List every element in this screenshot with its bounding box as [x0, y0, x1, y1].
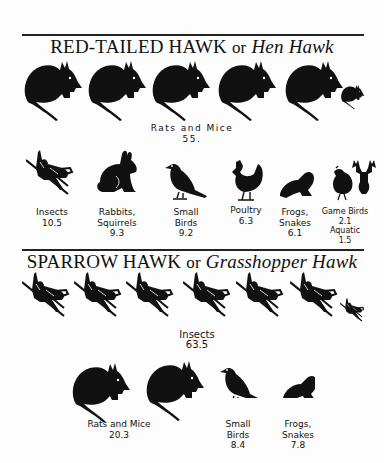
title-main: RED-TAILED HAWK — [50, 36, 227, 57]
frogs-snakes-label: Frogs,Snakes6.1 — [279, 207, 311, 239]
frogs-snakes-label: Frogs,Snakes7.8 — [282, 419, 314, 451]
title-alt: Hen Hawk — [251, 36, 333, 57]
title-main: SPARROW HAWK — [27, 251, 182, 272]
grasshopper-icon — [26, 150, 78, 200]
grasshopper-icon — [236, 272, 290, 328]
insects-label: Insects10.5 — [36, 207, 68, 228]
title-or: or — [232, 38, 247, 57]
crayfish-icon — [350, 160, 378, 196]
songbird-icon — [165, 158, 211, 202]
rat-icon — [86, 58, 150, 124]
title-alt: Grasshopper Hawk — [206, 251, 358, 272]
rabbits-squirrels-label: Rabbits,Squirrels9.3 — [97, 207, 136, 239]
grasshopper-icon — [22, 272, 76, 328]
grasshopper-icon — [290, 272, 344, 328]
grasshopper-partial-icon — [340, 298, 364, 322]
grasshopper-icon — [74, 272, 128, 328]
poultry-label: Poultry6.3 — [230, 205, 261, 226]
grasshopper-icon — [183, 272, 237, 328]
rat-icon — [150, 58, 214, 124]
insects-label: Insects63.5 — [179, 330, 214, 350]
red-tailed-hawk-title: RED-TAILED HAWK or Hen Hawk — [0, 36, 384, 58]
rat-icon — [283, 58, 347, 124]
title-or: or — [186, 253, 201, 272]
rabbit-icon — [94, 150, 142, 196]
rat-icon — [70, 360, 134, 422]
game-birds-aquatic-label: Game Birds2.1 Aquatic1.5 — [322, 207, 368, 245]
frog-icon — [278, 166, 316, 200]
small-birds-label: SmallBirds8.4 — [226, 419, 251, 451]
rat-icon — [22, 58, 86, 124]
rats-mice-label: Rats and Mice20.3 — [87, 419, 150, 440]
songbird-icon — [220, 362, 260, 398]
frog-icon — [281, 370, 315, 398]
small-birds-label: SmallBirds9.2 — [174, 207, 199, 239]
rat-icon — [216, 58, 280, 124]
rat-icon — [144, 358, 208, 422]
rat-half-icon — [340, 82, 366, 112]
sparrow-hawk-title: SPARROW HAWK or Grasshopper Hawk — [0, 251, 384, 273]
rats-mice-label: Rats and Mice 55. — [151, 123, 234, 144]
grasshopper-icon — [126, 272, 180, 328]
hen-icon — [228, 160, 268, 202]
